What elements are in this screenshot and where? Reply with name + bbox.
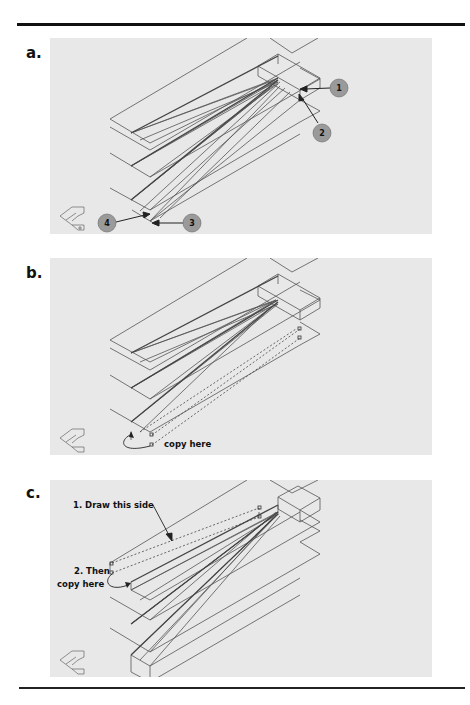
ucs-icon [60,429,84,452]
panel-a: 1 2 3 4 [50,38,432,234]
bottom-rule [19,687,465,689]
copy-arrow [108,574,131,588]
copy-arrow [124,431,150,448]
top-rule [17,23,465,26]
ucs-icon [60,651,84,674]
callout-3-number: 3 [189,219,195,228]
copy-here-label: copy here [57,579,104,589]
panel-c-drawing: 1. Draw this side 2. Then copy here [50,480,432,677]
panel-b: copy here [50,258,432,455]
panel-a-drawing: 1 2 3 4 [50,38,432,234]
panel-b-label: b. [26,264,42,282]
callout-2-number: 2 [319,129,325,138]
ucs-icon [60,207,84,230]
then-label: 2. Then [74,566,110,576]
callout-1-number: 1 [336,84,342,93]
copy-here-label: copy here [164,439,211,449]
panel-b-drawing: copy here [50,258,432,455]
panel-c-label: c. [26,484,41,502]
draw-this-side-label: 1. Draw this side [73,500,154,510]
panel-c: 1. Draw this side 2. Then copy here [50,480,432,677]
callout-4-number: 4 [104,219,110,228]
panel-a-label: a. [26,44,42,62]
